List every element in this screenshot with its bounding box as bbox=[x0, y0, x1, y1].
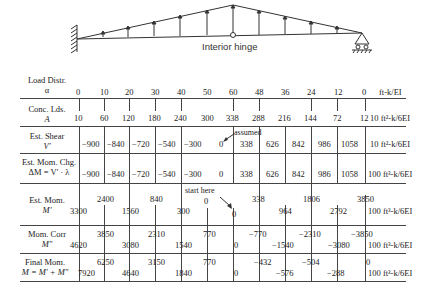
cell: 288 bbox=[252, 114, 265, 123]
cell: 338 bbox=[226, 114, 239, 123]
cell: −288 bbox=[327, 269, 345, 278]
roller-support-icon bbox=[352, 33, 372, 53]
cell: 12 bbox=[334, 88, 343, 97]
cell: 30 bbox=[151, 88, 160, 97]
rule bbox=[20, 126, 406, 127]
cell: 60 bbox=[229, 88, 238, 97]
tick bbox=[337, 98, 338, 111]
cell: 964 bbox=[279, 207, 292, 216]
cell: 60 bbox=[100, 114, 109, 123]
cell: 7920 bbox=[78, 269, 95, 278]
cell: −1540 bbox=[272, 241, 294, 250]
divider bbox=[129, 183, 130, 281]
row-label-shear: Est. ShearV' bbox=[22, 131, 72, 151]
cell: 12 bbox=[360, 114, 369, 123]
cell: −3080 bbox=[328, 241, 350, 250]
cell: 842 bbox=[292, 140, 305, 149]
cell: 3850 bbox=[97, 230, 114, 239]
cell: 1806 bbox=[303, 195, 320, 204]
divider bbox=[79, 126, 80, 183]
divider bbox=[79, 183, 80, 281]
cell: 1560 bbox=[122, 207, 139, 216]
cell: 36 bbox=[281, 88, 290, 97]
divider bbox=[365, 126, 366, 183]
cell: 1840 bbox=[175, 269, 192, 278]
cell: 0 bbox=[366, 258, 370, 267]
cell: 842 bbox=[292, 170, 305, 179]
cell: −300 bbox=[184, 170, 202, 179]
cell: 0 bbox=[204, 197, 208, 206]
cell: 216 bbox=[278, 114, 291, 123]
divider bbox=[311, 126, 312, 183]
cell: 0 bbox=[219, 170, 223, 179]
cell: 3150 bbox=[148, 258, 165, 267]
unit: 100 ft³-k/6EI bbox=[368, 170, 412, 179]
assumed-note: assumed bbox=[234, 128, 262, 137]
cell: 10 bbox=[74, 114, 83, 123]
cell: −504 bbox=[302, 258, 320, 267]
cell: 0 bbox=[234, 241, 238, 250]
divider bbox=[129, 126, 130, 183]
cell: −840 bbox=[107, 170, 125, 179]
divider bbox=[181, 183, 182, 281]
cell: 338 bbox=[240, 170, 253, 179]
cell: −432 bbox=[254, 258, 272, 267]
cell: −840 bbox=[107, 140, 125, 149]
cell: 338 bbox=[252, 195, 265, 204]
cell: −2310 bbox=[299, 230, 321, 239]
cell: 50 bbox=[203, 88, 212, 97]
divider bbox=[155, 126, 156, 183]
cell: −770 bbox=[249, 230, 267, 239]
cell: 770 bbox=[203, 258, 216, 267]
rule bbox=[20, 225, 406, 226]
tick bbox=[129, 98, 130, 111]
fixed-support-icon bbox=[71, 25, 77, 53]
cell: 20 bbox=[125, 88, 134, 97]
row-label-load: Load Distr.α bbox=[22, 75, 72, 95]
rule bbox=[20, 153, 406, 154]
cell: 338 bbox=[240, 140, 253, 149]
cell: 0 bbox=[232, 210, 236, 219]
cell: 3080 bbox=[122, 241, 139, 250]
unit: 100 ft³-k/6EI bbox=[368, 207, 412, 216]
start-here-note: start here bbox=[185, 186, 215, 195]
unit: 10 ft²-k/6EI bbox=[370, 114, 410, 123]
unit: 100 ft³-k/6EI bbox=[368, 269, 412, 278]
cell: −540 bbox=[158, 170, 176, 179]
hinge-icon bbox=[231, 33, 236, 38]
cell: 24 bbox=[307, 88, 316, 97]
cell: −576 bbox=[276, 269, 294, 278]
unit: 10 ft²-k/6EI bbox=[370, 140, 410, 149]
cell: 2400 bbox=[97, 195, 114, 204]
cell: 240 bbox=[174, 114, 187, 123]
cell: 986 bbox=[318, 170, 331, 179]
start-here-arrow-icon bbox=[218, 196, 234, 210]
beam-line bbox=[77, 33, 362, 39]
unit: ft-k/EI bbox=[379, 88, 402, 97]
divider bbox=[104, 205, 105, 281]
rule bbox=[20, 253, 406, 254]
cell: 40 bbox=[177, 88, 186, 97]
row-label-conc: Conc. Lds.A bbox=[22, 104, 72, 124]
cell: 10 bbox=[100, 88, 109, 97]
cell: 2310 bbox=[148, 230, 165, 239]
tick bbox=[365, 98, 366, 111]
cell: 770 bbox=[203, 230, 216, 239]
cell: −900 bbox=[82, 170, 100, 179]
cell: 2792 bbox=[330, 207, 347, 216]
divider bbox=[104, 126, 105, 183]
tick bbox=[104, 98, 105, 111]
cell: 300 bbox=[201, 114, 214, 123]
tick bbox=[259, 98, 260, 111]
rule bbox=[20, 183, 406, 184]
hinge-label: Interior hinge bbox=[202, 41, 257, 52]
row-label-momcorr: Mom. CorrM" bbox=[22, 229, 72, 249]
rule bbox=[20, 281, 406, 282]
tick bbox=[181, 98, 182, 111]
cell: 6250 bbox=[97, 258, 114, 267]
divider bbox=[285, 126, 286, 183]
unit: 100 ft³-k/6EI bbox=[368, 241, 412, 250]
divider bbox=[207, 208, 208, 281]
cell: −3850 bbox=[351, 230, 373, 239]
cell: 626 bbox=[266, 140, 279, 149]
